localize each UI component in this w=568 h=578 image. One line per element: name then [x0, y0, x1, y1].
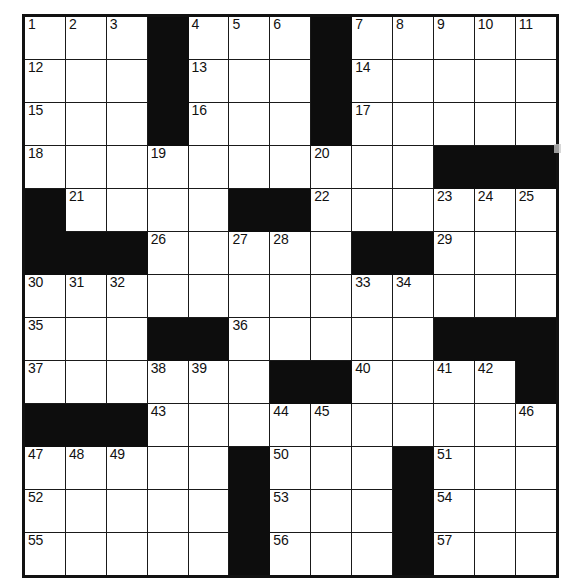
crossword-open-cell[interactable]: 24: [474, 189, 515, 232]
crossword-open-cell[interactable]: 27: [229, 232, 270, 275]
crossword-open-cell[interactable]: 31: [65, 275, 106, 318]
crossword-open-cell[interactable]: 17: [352, 103, 393, 146]
crossword-open-cell[interactable]: [147, 275, 188, 318]
crossword-open-cell[interactable]: 16: [188, 103, 229, 146]
crossword-open-cell[interactable]: 25: [515, 189, 557, 232]
crossword-open-cell[interactable]: [229, 275, 270, 318]
crossword-open-cell[interactable]: [188, 189, 229, 232]
crossword-open-cell[interactable]: [106, 60, 147, 103]
crossword-open-cell[interactable]: 34: [393, 275, 434, 318]
crossword-open-cell[interactable]: 51: [433, 447, 474, 490]
crossword-open-cell[interactable]: [106, 189, 147, 232]
crossword-open-cell[interactable]: [147, 490, 188, 533]
crossword-open-cell[interactable]: [65, 533, 106, 577]
crossword-open-cell[interactable]: 20: [311, 146, 352, 189]
crossword-open-cell[interactable]: [311, 490, 352, 533]
crossword-open-cell[interactable]: [515, 232, 557, 275]
crossword-open-cell[interactable]: [433, 275, 474, 318]
crossword-open-cell[interactable]: [352, 533, 393, 577]
crossword-open-cell[interactable]: [65, 490, 106, 533]
crossword-open-cell[interactable]: [352, 490, 393, 533]
crossword-open-cell[interactable]: 42: [474, 361, 515, 404]
crossword-open-cell[interactable]: [393, 404, 434, 447]
crossword-open-cell[interactable]: 2: [65, 16, 106, 60]
crossword-grid[interactable]: 1234567891011121314151617181920212223242…: [22, 14, 559, 578]
crossword-open-cell[interactable]: 41: [433, 361, 474, 404]
crossword-open-cell[interactable]: [352, 146, 393, 189]
crossword-open-cell[interactable]: 1: [24, 16, 66, 60]
crossword-open-cell[interactable]: [147, 447, 188, 490]
crossword-open-cell[interactable]: [474, 404, 515, 447]
crossword-open-cell[interactable]: [188, 533, 229, 577]
crossword-open-cell[interactable]: 43: [147, 404, 188, 447]
crossword-open-cell[interactable]: [393, 361, 434, 404]
crossword-open-cell[interactable]: [188, 490, 229, 533]
crossword-open-cell[interactable]: 19: [147, 146, 188, 189]
crossword-open-cell[interactable]: 52: [24, 490, 66, 533]
crossword-open-cell[interactable]: [515, 275, 557, 318]
crossword-open-cell[interactable]: 11: [515, 16, 557, 60]
crossword-open-cell[interactable]: [474, 232, 515, 275]
crossword-open-cell[interactable]: [433, 404, 474, 447]
crossword-open-cell[interactable]: 35: [24, 318, 66, 361]
crossword-open-cell[interactable]: [515, 447, 557, 490]
crossword-open-cell[interactable]: [474, 60, 515, 103]
crossword-open-cell[interactable]: 7: [352, 16, 393, 60]
crossword-open-cell[interactable]: [229, 361, 270, 404]
crossword-open-cell[interactable]: 38: [147, 361, 188, 404]
crossword-open-cell[interactable]: 15: [24, 103, 66, 146]
crossword-open-cell[interactable]: [270, 60, 311, 103]
crossword-open-cell[interactable]: [188, 447, 229, 490]
crossword-open-cell[interactable]: [352, 189, 393, 232]
crossword-open-cell[interactable]: 49: [106, 447, 147, 490]
crossword-open-cell[interactable]: [188, 146, 229, 189]
crossword-open-cell[interactable]: [188, 275, 229, 318]
crossword-open-cell[interactable]: [106, 490, 147, 533]
crossword-open-cell[interactable]: 4: [188, 16, 229, 60]
crossword-open-cell[interactable]: 53: [270, 490, 311, 533]
crossword-open-cell[interactable]: [188, 232, 229, 275]
crossword-open-cell[interactable]: [474, 103, 515, 146]
crossword-open-cell[interactable]: 29: [433, 232, 474, 275]
crossword-open-cell[interactable]: 9: [433, 16, 474, 60]
crossword-open-cell[interactable]: 44: [270, 404, 311, 447]
crossword-open-cell[interactable]: 30: [24, 275, 66, 318]
crossword-open-cell[interactable]: [311, 447, 352, 490]
crossword-open-cell[interactable]: [433, 60, 474, 103]
crossword-open-cell[interactable]: 13: [188, 60, 229, 103]
crossword-open-cell[interactable]: 12: [24, 60, 66, 103]
crossword-open-cell[interactable]: 47: [24, 447, 66, 490]
crossword-open-cell[interactable]: [393, 103, 434, 146]
crossword-open-cell[interactable]: [352, 447, 393, 490]
crossword-open-cell[interactable]: [270, 275, 311, 318]
crossword-open-cell[interactable]: [229, 60, 270, 103]
crossword-open-cell[interactable]: [393, 60, 434, 103]
crossword-open-cell[interactable]: [311, 533, 352, 577]
crossword-open-cell[interactable]: 56: [270, 533, 311, 577]
crossword-open-cell[interactable]: [474, 447, 515, 490]
crossword-open-cell[interactable]: [393, 146, 434, 189]
crossword-open-cell[interactable]: [147, 189, 188, 232]
crossword-open-cell[interactable]: 36: [229, 318, 270, 361]
crossword-open-cell[interactable]: [515, 103, 557, 146]
crossword-open-cell[interactable]: 55: [24, 533, 66, 577]
crossword-open-cell[interactable]: 28: [270, 232, 311, 275]
crossword-open-cell[interactable]: [229, 404, 270, 447]
crossword-open-cell[interactable]: [229, 146, 270, 189]
crossword-open-cell[interactable]: [270, 318, 311, 361]
crossword-open-cell[interactable]: [311, 318, 352, 361]
crossword-open-cell[interactable]: [474, 490, 515, 533]
crossword-open-cell[interactable]: [270, 103, 311, 146]
crossword-open-cell[interactable]: 18: [24, 146, 66, 189]
crossword-open-cell[interactable]: 8: [393, 16, 434, 60]
crossword-open-cell[interactable]: [65, 146, 106, 189]
crossword-open-cell[interactable]: 22: [311, 189, 352, 232]
crossword-open-cell[interactable]: [106, 533, 147, 577]
crossword-open-cell[interactable]: [65, 361, 106, 404]
crossword-open-cell[interactable]: [106, 103, 147, 146]
crossword-open-cell[interactable]: 40: [352, 361, 393, 404]
crossword-open-cell[interactable]: [311, 275, 352, 318]
crossword-open-cell[interactable]: 45: [311, 404, 352, 447]
crossword-open-cell[interactable]: [65, 318, 106, 361]
crossword-open-cell[interactable]: 46: [515, 404, 557, 447]
